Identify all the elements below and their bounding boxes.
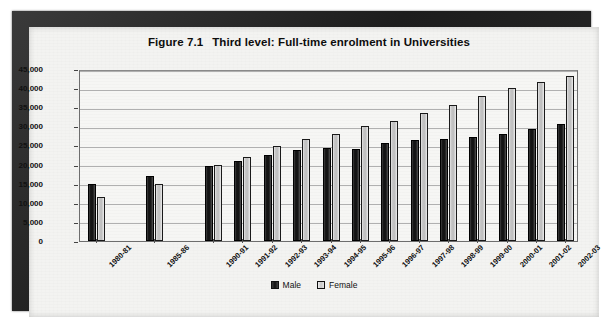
- chart-legend: Male Female: [29, 280, 599, 290]
- x-axis-tick-label: 1980-81: [107, 243, 133, 269]
- x-axis-tick-mark: [389, 239, 390, 243]
- y-axis-tick-label: 40,000: [0, 84, 43, 93]
- x-axis-tick-mark: [213, 239, 214, 243]
- bar-male: [293, 150, 301, 241]
- y-axis-tick-mark: [74, 185, 78, 186]
- bar-male: [264, 155, 272, 241]
- x-axis-tick-label: 1993-94: [312, 243, 338, 269]
- bar-female: [273, 146, 281, 241]
- y-axis-tick-mark: [74, 146, 78, 147]
- x-axis-tick-label: 1992-93: [283, 243, 309, 269]
- figure-card: Figure 7.1Third level: Full-time enrolme…: [29, 27, 599, 317]
- bar-male: [411, 140, 419, 241]
- x-axis-tick-label: 1991-92: [254, 243, 280, 269]
- x-axis-tick-mark: [448, 239, 449, 243]
- y-axis-tick-label: 25,000: [0, 141, 43, 150]
- bar-male: [352, 149, 360, 241]
- bar-female: [508, 88, 516, 241]
- bar-male: [381, 143, 389, 241]
- y-axis-tick-label: 45,000: [0, 65, 43, 74]
- x-axis-tick-mark: [272, 239, 273, 243]
- x-axis-tick-mark: [507, 239, 508, 243]
- x-axis-tick-label: 1999-00: [488, 243, 514, 269]
- y-axis-tick-mark: [74, 70, 78, 71]
- y-axis-tick-label: 5,000: [0, 218, 43, 227]
- y-axis-tick-label: 20,000: [0, 161, 43, 170]
- bar-group: [264, 71, 282, 241]
- bar-male: [146, 176, 154, 241]
- y-axis-tick-mark: [74, 223, 78, 224]
- bar-group: [528, 71, 546, 241]
- bar-female: [155, 184, 163, 241]
- bar-female: [214, 165, 222, 241]
- legend-item-male: Male: [271, 280, 301, 290]
- page-title: Figure 7.1Third level: Full-time enrolme…: [29, 36, 589, 48]
- figure-title-text: Third level: Full-time enrolment in Univ…: [212, 36, 470, 48]
- y-axis-tick-label: 0: [0, 237, 43, 246]
- bar-group: [234, 71, 252, 241]
- bar-male: [469, 137, 477, 241]
- bar-female: [302, 139, 310, 241]
- bar-group: [352, 71, 370, 241]
- scan-border: Figure 7.1Third level: Full-time enrolme…: [12, 11, 591, 311]
- legend-label-male: Male: [283, 280, 301, 290]
- bar-group: [88, 71, 106, 241]
- y-axis-tick-mark: [74, 204, 78, 205]
- bar-female: [97, 197, 105, 241]
- x-axis-tick-label: 2001-02: [547, 243, 573, 269]
- bar-female: [420, 113, 428, 241]
- bar-male: [88, 184, 96, 241]
- bar-female: [566, 76, 574, 241]
- x-axis-tick-label: 2002-03: [576, 243, 602, 269]
- bar-group: [381, 71, 399, 241]
- bar-group: [440, 71, 458, 241]
- x-axis-tick-mark: [154, 239, 155, 243]
- y-axis-tick-mark: [74, 127, 78, 128]
- y-axis-tick-mark: [74, 166, 78, 167]
- legend-swatch-female-icon: [317, 281, 325, 289]
- x-axis-tick-mark: [96, 239, 97, 243]
- legend-swatch-male-icon: [271, 281, 279, 289]
- bar-group: [557, 71, 575, 241]
- bar-male: [557, 124, 565, 241]
- x-axis-tick-label: 1995-96: [371, 243, 397, 269]
- y-axis-tick-label: 10,000: [0, 199, 43, 208]
- x-axis-tick-label: 1997-98: [430, 243, 456, 269]
- bar-group: [205, 71, 223, 241]
- bar-female: [537, 82, 545, 241]
- scanned-page: Figure 7.1Third level: Full-time enrolme…: [0, 0, 603, 324]
- legend-item-female: Female: [317, 280, 357, 290]
- x-axis-tick-label: 2000-01: [518, 243, 544, 269]
- x-axis-tick-mark: [331, 239, 332, 243]
- bar-female: [361, 126, 369, 241]
- bar-female: [449, 105, 457, 241]
- bar-group: [469, 71, 487, 241]
- y-axis-tick-mark: [74, 242, 78, 243]
- x-axis-tick-mark: [477, 239, 478, 243]
- x-axis-tick-mark: [536, 239, 537, 243]
- y-axis-tick-label: 35,000: [0, 103, 43, 112]
- bar-female: [332, 134, 340, 241]
- x-axis-tick-label: 1985-86: [166, 243, 192, 269]
- x-axis-tick-label: 1998-99: [459, 243, 485, 269]
- bar-male: [528, 129, 536, 241]
- bar-series-container: [80, 71, 577, 241]
- bar-female: [390, 121, 398, 241]
- y-axis-tick-label: 15,000: [0, 180, 43, 189]
- bar-group: [323, 71, 341, 241]
- bar-male: [205, 166, 213, 241]
- bar-group: [146, 71, 164, 241]
- bar-male: [499, 134, 507, 241]
- x-axis-tick-mark: [565, 239, 566, 243]
- x-axis-tick-label: 1996-97: [400, 243, 426, 269]
- bar-male: [440, 139, 448, 241]
- bar-male: [234, 161, 242, 241]
- legend-label-female: Female: [329, 280, 357, 290]
- x-axis-tick-label: 1994-95: [342, 243, 368, 269]
- y-axis-tick-label: 30,000: [0, 122, 43, 131]
- x-axis-tick-mark: [242, 239, 243, 243]
- bar-group: [293, 71, 311, 241]
- x-axis-tick-mark: [360, 239, 361, 243]
- x-axis-tick-mark: [419, 239, 420, 243]
- bar-group: [411, 71, 429, 241]
